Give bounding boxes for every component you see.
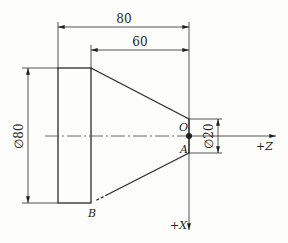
taper-top-edge bbox=[91, 68, 189, 119]
label-z-axis: +Z bbox=[256, 140, 273, 153]
label-point-b: B bbox=[87, 207, 96, 220]
taper-bottom-edge bbox=[91, 153, 189, 203]
dim-label-dia80: ∅80 bbox=[12, 123, 26, 148]
dim-label-dia20: ∅20 bbox=[202, 123, 216, 148]
dim-label-80: 80 bbox=[116, 12, 131, 26]
technical-drawing: 80 60 ∅80 ∅20 O A B +Z +X bbox=[0, 0, 288, 243]
cylinder-section bbox=[58, 68, 91, 203]
label-origin-o: O bbox=[179, 121, 188, 134]
drawing-canvas: 80 60 ∅80 ∅20 O A B +Z +X bbox=[0, 0, 288, 243]
dim-label-60: 60 bbox=[132, 35, 147, 49]
label-point-a: A bbox=[179, 143, 188, 156]
label-x-axis: +X bbox=[170, 219, 188, 232]
